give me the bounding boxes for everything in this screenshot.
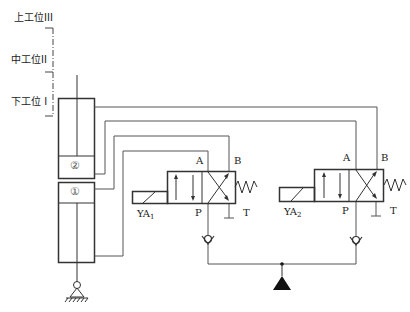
hydraulic-diagram: 上工位III 中工位II 下工位 I ② ① A B P T YA1 A B P… [0, 0, 410, 312]
directional-valve-2 [280, 170, 407, 202]
pivot-support-icon [65, 282, 88, 303]
valve1-port-b: B [234, 156, 241, 166]
valve2-solenoid-label: YA2 [284, 207, 302, 219]
valve1-solenoid-label: YA1 [137, 209, 155, 221]
cylinder-1-label: ① [70, 186, 80, 197]
label-lower-position: 下工位 I [11, 97, 47, 107]
valve1-port-a: A [196, 156, 203, 166]
valve2-port-p: P [342, 206, 349, 216]
valve1-port-p: P [195, 208, 202, 218]
cylinder-2-label: ② [70, 160, 80, 171]
valve1-port-t: T [243, 208, 250, 218]
pipelines [95, 107, 382, 264]
directional-valve-1 [133, 172, 258, 204]
label-middle-position: 中工位II [11, 55, 47, 65]
valve2-port-t: T [390, 206, 397, 216]
pressure-source-icon [273, 276, 291, 290]
valve2-port-a: A [343, 153, 350, 163]
check-valve-2-icon [350, 237, 362, 246]
check-valve-1-icon [202, 236, 214, 245]
valve2-port-b: B [381, 153, 388, 163]
label-upper-position: 上工位III [14, 13, 53, 23]
